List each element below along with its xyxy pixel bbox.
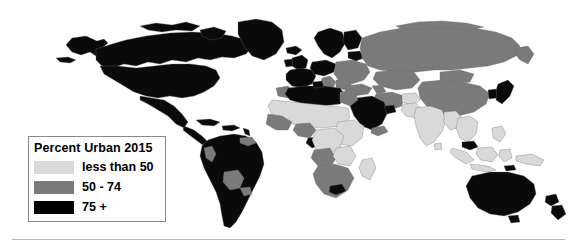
region-new-zealand-south	[551, 205, 566, 220]
region-australia	[466, 172, 536, 216]
legend-swatch-high	[34, 201, 74, 214]
region-kamchatka	[515, 46, 534, 64]
region-malaysia	[462, 141, 478, 150]
region-mexico	[140, 96, 188, 128]
legend-swatch-low	[34, 161, 74, 174]
legend-item-low: less than 50	[34, 158, 165, 176]
region-tanzania-zambia	[333, 146, 356, 166]
map-legend: Percent Urban 2015 less than 50 50 - 74 …	[28, 136, 166, 222]
region-borneo	[476, 147, 498, 162]
region-tasmania	[508, 215, 520, 223]
region-south-america	[200, 134, 264, 228]
region-java	[470, 164, 496, 172]
region-british-isles	[292, 55, 308, 70]
region-madagascar	[359, 158, 376, 180]
legend-label-mid: 50 - 74	[82, 181, 121, 194]
region-philippines	[492, 126, 506, 142]
legend-item-mid: 50 - 74	[34, 178, 165, 196]
region-cuba	[196, 119, 220, 126]
region-timor	[504, 165, 516, 171]
region-canada-mainland	[96, 32, 252, 68]
region-europe	[284, 28, 370, 90]
region-russia	[360, 26, 520, 72]
region-scandinavia	[314, 28, 346, 58]
region-north-america	[56, 19, 302, 146]
region-france-iberia	[286, 68, 316, 88]
region-korea	[488, 89, 497, 99]
region-central-america	[183, 126, 208, 146]
region-afghanistan	[402, 93, 420, 105]
region-sumatra	[450, 148, 474, 164]
region-germany-lowlands	[310, 60, 336, 76]
region-ireland	[284, 59, 293, 67]
region-iceland	[286, 46, 302, 55]
region-tunisia	[312, 81, 324, 88]
legend-swatch-mid	[34, 181, 74, 194]
region-sulawesi	[499, 149, 512, 162]
region-canada-arctic-islands	[140, 22, 200, 32]
region-papua-new-guinea	[516, 154, 544, 166]
region-united-states	[100, 64, 220, 98]
legend-label-high: 75 +	[82, 201, 107, 214]
region-india	[414, 106, 446, 146]
region-japan	[496, 80, 514, 104]
region-sri-lanka	[434, 143, 442, 150]
region-hispaniola	[222, 125, 240, 131]
legend-title: Percent Urban 2015	[34, 141, 165, 156]
region-aleutians	[56, 57, 76, 63]
legend-label-low: less than 50	[82, 161, 154, 174]
region-indochina	[456, 116, 478, 142]
legend-item-high: 75 +	[34, 198, 165, 216]
bottom-divider	[12, 239, 565, 240]
region-new-zealand-north	[545, 194, 559, 206]
region-lesser-antilles	[243, 128, 250, 136]
region-finland	[343, 30, 362, 50]
region-oceania	[466, 172, 566, 223]
world-map-figure: Percent Urban 2015 less than 50 50 - 74 …	[0, 0, 577, 252]
